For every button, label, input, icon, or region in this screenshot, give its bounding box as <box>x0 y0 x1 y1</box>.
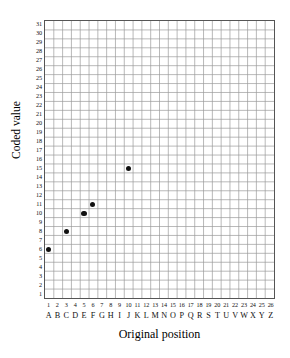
y-axis-title: Coded value <box>10 70 22 190</box>
y-axis-tick-label: 2 <box>26 282 42 288</box>
y-axis-tick-label: 8 <box>26 228 42 234</box>
y-axis-tick-label: 14 <box>26 174 42 180</box>
y-axis-tick-label: 20 <box>26 120 42 126</box>
y-axis-tick-label: 6 <box>26 246 42 252</box>
y-axis-tick-label: 30 <box>26 30 42 36</box>
x-axis-number-tick-label: 26 <box>264 301 278 309</box>
y-axis-tick-labels: 1234567891011121314151617181920212223242… <box>23 20 42 299</box>
y-axis-tick-label: 7 <box>26 237 42 243</box>
y-axis-tick-label: 12 <box>26 192 42 198</box>
y-axis-tick-label: 11 <box>26 201 42 207</box>
x-axis-letter-tick-label: Z <box>264 311 278 320</box>
y-axis-tick-label: 18 <box>26 138 42 144</box>
x-axis-letter-tick-labels: ABCDEFGHIJKLMNOPQRSTUVWXYZ <box>44 311 275 321</box>
y-axis-tick-label: 28 <box>26 48 42 54</box>
y-axis-tick-label: 24 <box>26 84 42 90</box>
x-axis-number-tick-labels: 1234567891011121314151617181920212223242… <box>44 301 275 311</box>
y-axis-tick-label: 16 <box>26 156 42 162</box>
y-axis-tick-label: 15 <box>26 165 42 171</box>
y-axis-tick-label: 22 <box>26 102 42 108</box>
y-axis-tick-label: 19 <box>26 129 42 135</box>
y-axis-tick-label: 29 <box>26 39 42 45</box>
y-axis-tick-label: 5 <box>26 255 42 261</box>
x-axis-title: Original position <box>44 327 275 341</box>
y-axis-tick-label: 10 <box>26 210 42 216</box>
y-axis-tick-label: 25 <box>26 75 42 81</box>
y-axis-tick-label: 4 <box>26 264 42 270</box>
y-axis-tick-label: 21 <box>26 111 42 117</box>
y-axis-tick-label: 27 <box>26 57 42 63</box>
y-axis-tick-label: 9 <box>26 219 42 225</box>
plot-area <box>44 20 275 299</box>
grid-lines <box>45 21 274 298</box>
scatter-plot-figure: 1234567891011121314151617181920212223242… <box>0 0 290 358</box>
y-axis-tick-label: 3 <box>26 273 42 279</box>
y-axis-tick-label: 23 <box>26 93 42 99</box>
y-axis-tick-label: 13 <box>26 183 42 189</box>
y-axis-tick-label: 31 <box>26 21 42 27</box>
y-axis-tick-label: 1 <box>26 291 42 297</box>
y-axis-tick-label: 17 <box>26 147 42 153</box>
y-axis-tick-label: 26 <box>26 66 42 72</box>
